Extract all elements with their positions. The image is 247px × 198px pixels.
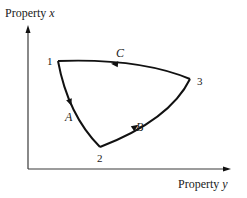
process-a-arrow-icon [66,98,74,107]
horizontal-axis-label: Property y [178,177,228,191]
process-diagram: Property x Property y 1 2 3 A B C [0,0,247,198]
state-3-label: 3 [197,75,203,87]
horizontal-axis-arrow-icon [223,167,231,172]
state-2-label: 2 [97,152,103,164]
vertical-axis-arrow-icon [26,25,31,33]
process-c-curve [58,61,190,79]
cycle [58,61,190,147]
process-a-curve [58,61,100,147]
axes [26,25,232,172]
vertical-axis-label: Property x [5,6,55,20]
process-b-curve [100,79,190,147]
process-b-label: B [136,120,144,134]
process-a-label: A [64,110,73,124]
state-1-label: 1 [47,55,53,67]
process-c-label: C [116,46,125,60]
